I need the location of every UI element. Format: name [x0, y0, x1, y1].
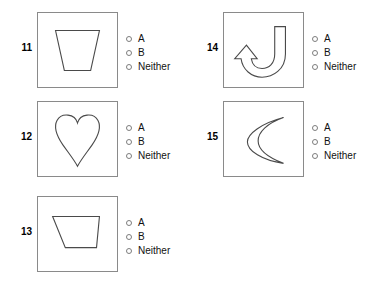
shape-box-11 [37, 12, 118, 88]
option-label-a-12: A [132, 121, 145, 134]
worksheet: 11 A B Neither 12 [0, 0, 372, 286]
item-number-11: 11 [10, 12, 37, 53]
option-b-14[interactable]: B [312, 46, 356, 59]
option-label-neither-15: Neither [318, 149, 356, 162]
option-label-b-12: B [132, 135, 145, 148]
shape-box-13 [37, 196, 118, 272]
option-a-11[interactable]: A [126, 32, 170, 45]
question-item-15: 15 A B Neither [196, 101, 356, 177]
item-number-13: 13 [10, 196, 37, 237]
option-label-b-15: B [318, 135, 331, 148]
j-hook-arrow-icon [224, 13, 303, 87]
options-group-11: A B Neither [118, 12, 170, 74]
shape-box-15 [223, 101, 304, 177]
option-a-13[interactable]: A [126, 216, 170, 229]
option-a-15[interactable]: A [312, 121, 356, 134]
option-label-neither-13: Neither [132, 244, 170, 257]
options-group-13: A B Neither [118, 196, 170, 258]
option-b-15[interactable]: B [312, 135, 356, 148]
option-neither-11[interactable]: Neither [126, 60, 170, 73]
option-label-b-13: B [132, 230, 145, 243]
item-number-15: 15 [196, 101, 223, 142]
option-b-13[interactable]: B [126, 230, 170, 243]
option-a-12[interactable]: A [126, 121, 170, 134]
option-label-a-11: A [132, 32, 145, 45]
irregular-quadrilateral-icon [38, 197, 117, 271]
item-number-12: 12 [10, 101, 37, 142]
options-group-14: A B Neither [304, 12, 356, 74]
option-label-neither-11: Neither [132, 60, 170, 73]
question-item-12: 12 A B Neither [10, 101, 170, 177]
shape-box-14 [223, 12, 304, 88]
shape-box-12 [37, 101, 118, 177]
question-item-14: 14 A B Neither [196, 12, 356, 88]
item-number-14: 14 [196, 12, 223, 53]
heart-icon [38, 102, 117, 176]
option-label-a-15: A [318, 121, 331, 134]
option-label-neither-14: Neither [318, 60, 356, 73]
option-b-11[interactable]: B [126, 46, 170, 59]
question-item-13: 13 A B Neither [10, 196, 170, 272]
option-label-a-14: A [318, 32, 331, 45]
options-group-15: A B Neither [304, 101, 356, 163]
options-group-12: A B Neither [118, 101, 170, 163]
option-neither-12[interactable]: Neither [126, 149, 170, 162]
option-label-a-13: A [132, 216, 145, 229]
option-b-12[interactable]: B [126, 135, 170, 148]
question-item-11: 11 A B Neither [10, 12, 170, 88]
option-label-neither-12: Neither [132, 149, 170, 162]
option-neither-13[interactable]: Neither [126, 244, 170, 257]
crescent-icon [224, 102, 303, 176]
option-label-b-11: B [132, 46, 145, 59]
option-neither-14[interactable]: Neither [312, 60, 356, 73]
option-neither-15[interactable]: Neither [312, 149, 356, 162]
trapezoid-icon [38, 13, 117, 87]
option-a-14[interactable]: A [312, 32, 356, 45]
option-label-b-14: B [318, 46, 331, 59]
